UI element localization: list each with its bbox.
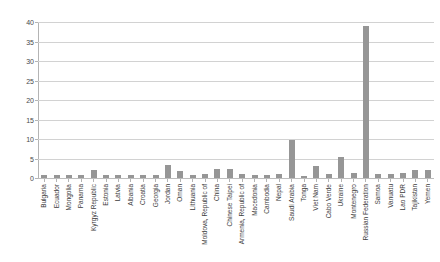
x-tick-mark xyxy=(155,179,156,182)
x-tick: Cabo Verde xyxy=(323,179,335,261)
bar-slot xyxy=(409,22,421,178)
bar-slot xyxy=(199,22,211,178)
bar[interactable] xyxy=(153,175,159,179)
bar-slot xyxy=(248,22,260,178)
x-tick-mark xyxy=(81,179,82,182)
bar[interactable] xyxy=(103,175,109,178)
bar[interactable] xyxy=(412,170,418,178)
bar[interactable] xyxy=(227,169,233,178)
bar[interactable] xyxy=(66,175,72,178)
x-tick: Ecuador xyxy=(50,179,62,261)
x-tick-label: Estonia xyxy=(103,184,110,206)
bar[interactable] xyxy=(363,26,369,178)
x-tick-label: China xyxy=(214,184,221,201)
x-tick: Ukraine xyxy=(335,179,347,261)
x-tick-label: Georgia xyxy=(152,184,159,207)
bar[interactable] xyxy=(289,140,295,178)
x-axis: BulgariaEcuadorMongoliaPanamaKyrgyz Repu… xyxy=(38,179,434,261)
x-tick-mark xyxy=(415,179,416,182)
bar[interactable] xyxy=(54,175,60,178)
bar[interactable] xyxy=(276,174,282,178)
bar-slot xyxy=(422,22,434,178)
bar-slot xyxy=(149,22,161,178)
x-tick-label: Moldova, Republic of xyxy=(202,184,209,245)
y-tick-label: 30 xyxy=(26,58,34,65)
x-tick: Samoa xyxy=(372,179,384,261)
bar[interactable] xyxy=(78,175,84,179)
x-tick: Albania xyxy=(125,179,137,261)
bar[interactable] xyxy=(425,170,431,178)
x-tick-mark xyxy=(341,179,342,182)
bar[interactable] xyxy=(115,175,121,178)
bar[interactable] xyxy=(351,173,357,178)
bar-slot xyxy=(112,22,124,178)
bar-slot xyxy=(137,22,149,178)
x-tick-label: Bulgaria xyxy=(41,184,48,208)
x-tick-mark xyxy=(378,179,379,182)
x-tick: Vanuatu xyxy=(385,179,397,261)
bar[interactable] xyxy=(375,174,381,178)
bar[interactable] xyxy=(140,175,146,179)
x-tick-mark xyxy=(68,179,69,182)
bar[interactable] xyxy=(165,165,171,178)
x-tick: Jordan xyxy=(162,179,174,261)
x-tick-label: Saudi Arabia xyxy=(288,184,295,221)
bar-slot xyxy=(310,22,322,178)
x-tick-label: Lao PDR xyxy=(400,184,407,210)
bar[interactable] xyxy=(190,175,196,178)
x-tick-label: Ecuador xyxy=(53,184,60,208)
bar[interactable] xyxy=(91,170,97,178)
x-tick: Kyrgyz Republic xyxy=(88,179,100,261)
bar[interactable] xyxy=(388,174,394,178)
x-tick-mark xyxy=(304,179,305,182)
bar[interactable] xyxy=(214,169,220,178)
bar-slot xyxy=(162,22,174,178)
x-tick-mark xyxy=(192,179,193,182)
x-tick-label: Tajikistan xyxy=(412,184,419,211)
x-tick-label: Latvia xyxy=(115,184,122,201)
bar-slot xyxy=(88,22,100,178)
x-tick-label: Jordan xyxy=(165,184,172,204)
bar[interactable] xyxy=(301,176,307,178)
bar[interactable] xyxy=(326,174,332,178)
bar[interactable] xyxy=(202,174,208,178)
y-tick-label: 35 xyxy=(26,38,34,45)
x-tick-mark xyxy=(427,179,428,182)
x-tick-mark xyxy=(180,179,181,182)
bar-chart: 0510152025303540 BulgariaEcuadorMongolia… xyxy=(0,0,440,262)
bar[interactable] xyxy=(239,174,245,178)
y-tick-label: 20 xyxy=(26,97,34,104)
bar-slot xyxy=(63,22,75,178)
bar[interactable] xyxy=(41,175,47,178)
bar[interactable] xyxy=(128,175,134,178)
x-tick: Tajikistan xyxy=(409,179,421,261)
bar-slot xyxy=(372,22,384,178)
x-tick: Armenia, Republic of xyxy=(236,179,248,261)
bar-slot xyxy=(50,22,62,178)
x-tick: Cambodia xyxy=(261,179,273,261)
bar[interactable] xyxy=(264,175,270,178)
x-tick: Mongolia xyxy=(63,179,75,261)
x-tick: Nepal xyxy=(273,179,285,261)
x-tick-label: Yemen xyxy=(425,184,432,204)
x-tick-mark xyxy=(242,179,243,182)
x-tick-label: Macedonia xyxy=(251,184,258,216)
x-tick-label: Oman xyxy=(177,184,184,202)
bar[interactable] xyxy=(400,173,406,178)
x-tick-mark xyxy=(291,179,292,182)
x-tick: Panama xyxy=(75,179,87,261)
y-tick-label: 40 xyxy=(26,19,34,26)
bar[interactable] xyxy=(177,171,183,178)
bar[interactable] xyxy=(252,175,258,178)
x-tick-mark xyxy=(403,179,404,182)
bar[interactable] xyxy=(338,157,344,178)
bar-slot xyxy=(335,22,347,178)
x-tick: Estonia xyxy=(100,179,112,261)
plot-area: 0510152025303540 xyxy=(38,22,434,178)
bar[interactable] xyxy=(313,166,319,178)
x-tick-mark xyxy=(353,179,354,182)
y-tick-label: 0 xyxy=(30,175,34,182)
x-tick-mark xyxy=(93,179,94,182)
x-tick-mark xyxy=(118,179,119,182)
x-tick-label: Panama xyxy=(78,184,85,208)
